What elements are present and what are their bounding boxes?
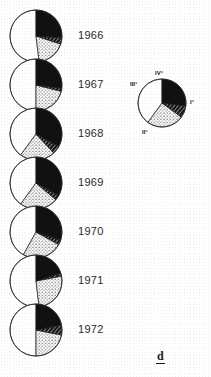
pie-1969	[10, 157, 62, 209]
year-label-1971: 1971	[78, 274, 104, 286]
pie-1968	[10, 108, 62, 160]
figure-letter: d	[156, 350, 165, 364]
legend-label-IIIdeg: III°	[130, 81, 137, 87]
pie-slice-IVdeg	[36, 304, 62, 330]
legend-label-IIdeg: II°	[142, 129, 148, 135]
year-label-1970: 1970	[78, 225, 104, 237]
pie-1972	[10, 304, 62, 356]
pie-legend	[138, 79, 186, 127]
pie-slice-IVdeg	[36, 10, 62, 38]
figure-panel-d: 1966196719681969197019711972 IV°III°I°II…	[0, 0, 211, 377]
pie-slice-IVdeg	[36, 59, 62, 88]
year-label-1972: 1972	[78, 323, 104, 335]
year-label-1969: 1969	[78, 176, 104, 188]
pie-1970	[10, 206, 62, 258]
year-label-1966: 1966	[78, 29, 104, 41]
pie-slice-Ideg	[10, 255, 39, 307]
pie-slice-IIdeg	[36, 276, 62, 307]
pie-chart-series	[0, 0, 211, 377]
pie-1966	[10, 10, 62, 62]
pie-1967	[10, 59, 62, 111]
year-label-1967: 1967	[78, 78, 104, 90]
legend-label-IVdeg: IV°	[155, 70, 163, 76]
year-label-1968: 1968	[78, 127, 104, 139]
legend-label-Ideg: I°	[190, 99, 194, 105]
pie-1971	[10, 255, 62, 307]
pie-slice-IVdeg	[162, 79, 186, 106]
pie-slice-Ideg	[10, 304, 36, 356]
pie-slice-Ideg	[10, 59, 36, 111]
pie-slice-Ideg	[10, 10, 39, 62]
